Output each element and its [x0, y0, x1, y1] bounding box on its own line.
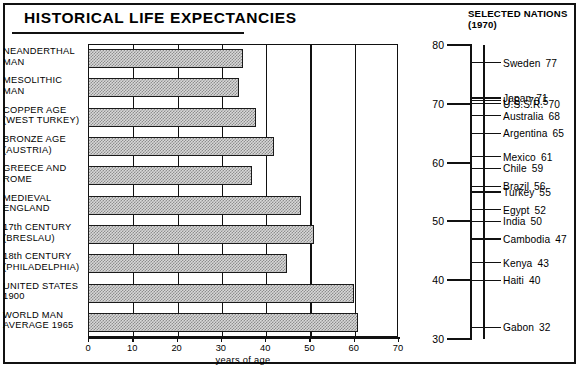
scale-major-label: 80	[422, 39, 444, 51]
figure-root: HISTORICAL LIFE EXPECTANCIES NEANDERTHAL…	[0, 0, 581, 369]
nation-label: Australia68	[503, 110, 560, 121]
x-tick-label: 20	[171, 343, 181, 353]
nation-tick	[470, 115, 501, 116]
category-label: GREECE ANDROME	[3, 163, 89, 184]
scale-major-tick	[447, 103, 472, 105]
nation-tick	[470, 186, 501, 187]
category-label-line: (PHILADELPHIA)	[3, 262, 89, 273]
nation-tick	[470, 62, 501, 63]
bar-series	[88, 44, 398, 337]
nation-tick	[470, 156, 501, 157]
category-label: COPPER AGE(WEST TURKEY)	[3, 105, 89, 126]
nation-value: 70	[548, 98, 560, 109]
category-label-line: GREECE AND	[3, 163, 89, 174]
category-label-line: 18th CENTURY	[3, 251, 89, 262]
x-tick-label: 40	[260, 343, 270, 353]
x-tick	[177, 337, 178, 342]
nation-name: Haiti	[503, 275, 524, 286]
bar	[88, 166, 252, 185]
nations-title-line2: (1970)	[468, 19, 497, 30]
bar	[88, 108, 256, 127]
nation-name: Cambodia	[503, 234, 550, 245]
nation-tick	[470, 97, 501, 98]
nation-value: 32	[539, 322, 551, 333]
title-rule	[12, 32, 244, 34]
category-label-line: AVERAGE 1965	[3, 320, 89, 331]
x-tick-label: 50	[304, 343, 314, 353]
nation-label: Haiti40	[503, 275, 540, 286]
nation-label: Cambodia47	[503, 234, 567, 245]
x-tick	[354, 337, 355, 342]
x-tick-label: 10	[127, 343, 137, 353]
nation-label: U.S.S.R.70	[503, 98, 560, 109]
x-tick-label: 70	[393, 343, 403, 353]
nation-label: Kenya43	[503, 257, 549, 268]
category-label: 17th CENTURY(BRESLAU)	[3, 222, 89, 243]
scale-major-label: 70	[422, 98, 444, 110]
bar	[88, 313, 358, 332]
category-label: MESOLITHICMAN	[3, 75, 89, 96]
nation-tick	[470, 168, 501, 169]
x-tick	[88, 337, 89, 342]
bar	[88, 284, 354, 303]
category-label: BRONZE AGE(AUSTRIA)	[3, 134, 89, 155]
nations-title-line1: SELECTED NATIONS	[468, 8, 568, 19]
scale-major-label: 50	[422, 215, 444, 227]
category-label: 18th CENTURY(PHILADELPHIA)	[3, 251, 89, 272]
nation-name: India	[503, 216, 526, 227]
scale-major-tick	[447, 220, 472, 222]
nation-name: Australia	[503, 110, 544, 121]
category-label-line: (BRESLAU)	[3, 233, 89, 244]
category-label-line: NEANDERTHAL	[3, 46, 89, 57]
bar	[88, 49, 243, 68]
nation-value: 59	[532, 163, 544, 174]
nation-label: Gabon32	[503, 322, 551, 333]
nation-value: 68	[549, 110, 561, 121]
category-label-line: ENGLAND	[3, 203, 89, 214]
bar	[88, 196, 301, 215]
category-label-line: MEDIEVAL	[3, 193, 89, 204]
nation-label: Chile59	[503, 163, 543, 174]
bar	[88, 78, 239, 97]
nation-name: Sweden	[503, 57, 540, 68]
nation-value: 77	[545, 57, 557, 68]
nation-name: Egypt	[503, 204, 530, 215]
category-label: UNITED STATES1900	[3, 281, 89, 302]
x-tick-label: 30	[216, 343, 226, 353]
category-label-line: MESOLITHIC	[3, 75, 89, 86]
category-label: NEANDERTHALMAN	[3, 46, 89, 67]
x-tick	[132, 337, 133, 342]
scale-major-label: 30	[422, 333, 444, 345]
bar	[88, 225, 314, 244]
nation-name: Mexico	[503, 151, 536, 162]
nation-value: 65	[553, 128, 565, 139]
nation-name: Gabon	[503, 322, 534, 333]
nation-value: 61	[541, 151, 553, 162]
scale-major-tick	[447, 279, 472, 281]
nation-name: Argentina	[503, 128, 548, 139]
nation-label: India50	[503, 216, 542, 227]
category-label-line: COPPER AGE	[3, 105, 89, 116]
bar	[88, 137, 274, 156]
nation-tick	[470, 221, 501, 222]
nation-tick	[470, 100, 501, 101]
nation-tick	[470, 191, 501, 192]
nation-label: Argentina65	[503, 128, 564, 139]
nation-label: Sweden77	[503, 57, 557, 68]
category-label-line: MAN	[3, 86, 89, 97]
nation-tick	[470, 103, 501, 104]
bar	[88, 254, 287, 273]
x-axis-title: years of age	[216, 355, 271, 365]
nation-name: Turkey	[503, 187, 534, 198]
nation-tick	[470, 262, 501, 263]
x-tick-label: 60	[349, 343, 359, 353]
category-label-line: (WEST TURKEY)	[3, 115, 89, 126]
x-tick-label: 0	[85, 343, 90, 353]
category-label-line: WORLD MAN	[3, 310, 89, 321]
category-label-line: UNITED STATES	[3, 281, 89, 292]
nation-tick	[470, 238, 501, 239]
chart-title: HISTORICAL LIFE EXPECTANCIES	[24, 9, 297, 27]
nation-name: Kenya	[503, 257, 532, 268]
scale-major-tick	[447, 162, 472, 164]
nation-label: Mexico61	[503, 151, 552, 162]
